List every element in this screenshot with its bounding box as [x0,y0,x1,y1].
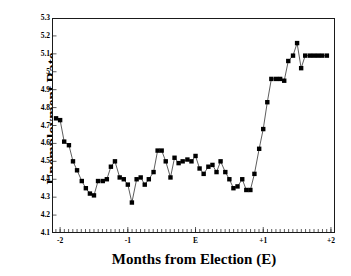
series-markers [54,41,329,205]
data-point-marker [235,184,239,188]
y-tick-label: 4.7 [28,122,50,130]
data-point-marker [299,66,303,70]
y-tick-label: 5.1 [28,50,50,58]
data-point-marker [218,159,222,163]
data-point-marker [231,186,235,190]
data-point-marker [138,175,142,179]
data-point-marker [265,100,269,104]
data-point-marker [308,53,312,57]
data-point-marker [101,179,105,183]
data-point-marker [130,200,134,204]
data-series-plot [52,18,335,233]
data-point-marker [105,177,109,181]
data-point-marker [168,175,172,179]
data-point-marker [134,177,138,181]
data-point-marker [185,157,189,161]
y-tick-label: 5.3 [28,14,50,22]
data-point-marker [291,53,295,57]
data-point-marker [206,165,210,169]
data-point-marker [210,163,214,167]
data-point-marker [193,154,197,158]
data-point-marker [295,41,299,45]
data-point-marker [325,53,329,57]
data-point-marker [240,177,244,181]
data-point-marker [274,77,278,81]
unemployment-rate-chart: Unemployment Rate 4.14.24.34.44.54.64.74… [0,0,351,276]
data-point-marker [286,59,290,63]
x-axis-tick-labels: -2-1E+1+2 [0,236,351,250]
data-point-marker [58,118,62,122]
data-point-marker [320,53,324,57]
data-point-marker [67,143,71,147]
x-tick-label: +2 [316,236,346,245]
data-point-marker [113,159,117,163]
data-point-marker [269,77,273,81]
x-tick-label: E [181,236,211,245]
data-point-marker [80,179,84,183]
series-line [56,43,327,202]
y-tick-label: 4.6 [28,139,50,147]
data-point-marker [312,53,316,57]
y-tick-label: 4.9 [28,86,50,94]
data-point-marker [118,175,122,179]
data-point-marker [143,182,147,186]
x-axis-title: Months from Election (E) [52,251,336,268]
y-axis-tick-labels: 4.14.24.34.44.54.64.74.84.955.15.25.3 [24,0,50,276]
data-point-marker [151,170,155,174]
data-point-marker [92,193,96,197]
data-point-marker [155,148,159,152]
data-point-marker [147,177,151,181]
y-tick-label: 5 [28,68,50,76]
data-point-marker [122,177,126,181]
data-point-marker [75,168,79,172]
data-point-marker [248,188,252,192]
data-point-marker [282,79,286,83]
data-point-marker [126,182,130,186]
data-point-marker [180,159,184,163]
data-point-marker [62,139,66,143]
data-point-marker [109,165,113,169]
data-point-marker [164,159,168,163]
y-tick-label: 4.5 [28,157,50,165]
data-point-marker [316,53,320,57]
data-point-marker [252,172,256,176]
data-point-marker [223,170,227,174]
data-point-marker [96,179,100,183]
data-point-marker [201,172,205,176]
data-point-marker [84,186,88,190]
data-point-marker [54,116,58,120]
data-point-marker [197,166,201,170]
data-point-marker [227,177,231,181]
x-tick-label: -2 [45,236,75,245]
x-tick-label: -1 [113,236,143,245]
data-point-marker [159,148,163,152]
data-point-marker [172,156,176,160]
data-point-marker [257,147,261,151]
y-tick-label: 4.2 [28,211,50,219]
y-tick-label: 5.2 [28,32,50,40]
x-tick-label: +1 [248,236,278,245]
data-point-marker [189,159,193,163]
data-point-marker [71,159,75,163]
data-point-marker [176,161,180,165]
axis-tick-marks [52,18,331,233]
data-point-marker [303,53,307,57]
data-point-marker [244,188,248,192]
data-point-marker [214,170,218,174]
data-point-marker [278,77,282,81]
y-tick-label: 4.4 [28,175,50,183]
data-point-marker [88,191,92,195]
data-point-marker [261,127,265,131]
y-tick-label: 4.8 [28,104,50,112]
y-tick-label: 4.3 [28,193,50,201]
